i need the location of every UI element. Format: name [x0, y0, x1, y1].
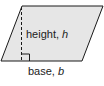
- base-label: base, b: [28, 65, 64, 77]
- parallelogram-diagram: height, h base, b: [0, 0, 104, 86]
- height-label: height, h: [26, 28, 68, 40]
